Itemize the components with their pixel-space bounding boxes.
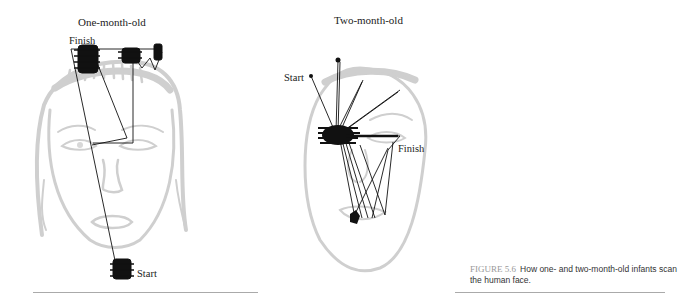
bottom-rule-right xyxy=(455,292,665,293)
two-month-start-label: Start xyxy=(284,72,304,83)
one-month-face-drawing xyxy=(37,62,186,248)
two-month-finish-label: Finish xyxy=(398,143,424,154)
face-scan-illustration xyxy=(0,0,698,303)
one-month-panel-title: One-month-old xyxy=(78,16,146,28)
two-month-panel-title: Two-month-old xyxy=(334,14,403,26)
figure-number: FIGURE 5.6 xyxy=(470,264,516,274)
bottom-rule-left xyxy=(33,292,258,293)
one-month-finish-label: Finish xyxy=(69,35,95,46)
two-month-face-drawing xyxy=(305,68,426,271)
figure-caption: FIGURE 5.6How one- and two-month-old inf… xyxy=(470,264,690,286)
one-month-start-label: Start xyxy=(137,268,157,279)
